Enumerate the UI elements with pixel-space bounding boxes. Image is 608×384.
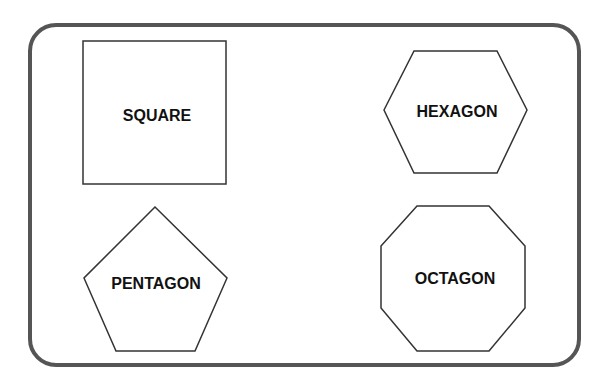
pentagon-label: PENTAGON: [111, 275, 200, 293]
hexagon-label: HEXAGON: [417, 103, 498, 121]
shapes-canvas: [0, 0, 608, 384]
octagon-label: OCTAGON: [415, 270, 496, 288]
square-label: SQUARE: [123, 107, 191, 125]
